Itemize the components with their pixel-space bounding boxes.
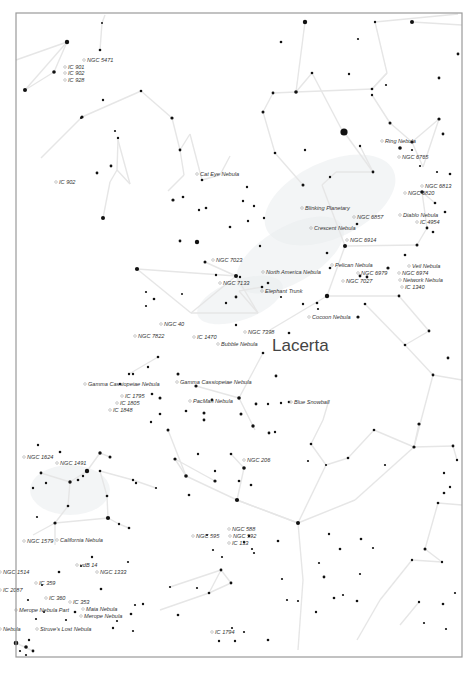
- dso-label[interactable]: Cat Eye Nebula: [200, 171, 239, 177]
- dso-label[interactable]: IC 1848: [113, 407, 133, 413]
- deep-sky-object[interactable]: IC 1795: [121, 393, 146, 399]
- deep-sky-object[interactable]: IC 1794: [211, 629, 235, 635]
- deep-sky-object[interactable]: IC 902: [64, 70, 86, 76]
- dso-label[interactable]: IC 133: [232, 540, 249, 546]
- star-chart[interactable]: NGC 5471IC 901IC 902IC 928Ring NebulaNGC…: [0, 0, 475, 674]
- deep-sky-object[interactable]: NGC 6914: [346, 237, 377, 243]
- deep-sky-object[interactable]: NGC 5471: [83, 57, 114, 63]
- dso-label[interactable]: NGC 1624: [27, 454, 53, 460]
- dso-label[interactable]: Crescent Nebula: [314, 225, 356, 231]
- dso-label[interactable]: NGC 6765: [402, 154, 429, 160]
- dso-label[interactable]: NGC 1333: [100, 569, 127, 575]
- dso-label[interactable]: Diablo Nebula: [403, 212, 438, 218]
- dso-label[interactable]: IC 1470: [197, 334, 217, 340]
- deep-sky-object[interactable]: NGC 1624: [23, 454, 54, 460]
- deep-sky-object[interactable]: Crescent Nebula: [310, 225, 356, 231]
- dso-label[interactable]: IC 360: [49, 595, 66, 601]
- deep-sky-object[interactable]: NGC 206: [243, 457, 272, 463]
- deep-sky-object[interactable]: IC 1340: [401, 284, 426, 290]
- dso-label[interactable]: IC 1795: [125, 393, 145, 399]
- dso-label[interactable]: Ring Nebula: [385, 138, 416, 144]
- dso-label[interactable]: NGC 6813: [425, 183, 452, 189]
- deep-sky-object[interactable]: IC 359: [35, 580, 56, 586]
- dso-label[interactable]: North America Nebula: [266, 269, 321, 275]
- dso-label[interactable]: Gamma Cassiopeiae Nebula: [88, 381, 160, 387]
- dso-label[interactable]: NGC 7398: [248, 329, 275, 335]
- dso-label[interactable]: Nebula: [3, 626, 21, 632]
- dso-label[interactable]: Struve's Lost Nebula: [40, 626, 91, 632]
- deep-sky-object[interactable]: IC 1805: [116, 400, 141, 406]
- deep-sky-object[interactable]: IC 2087: [0, 587, 23, 593]
- dso-label[interactable]: NGC 1579: [27, 538, 53, 544]
- deep-sky-object[interactable]: Ring Nebula: [381, 138, 416, 144]
- deep-sky-object[interactable]: Cat Eye Nebula: [196, 171, 239, 177]
- dso-label[interactable]: IC 902: [68, 70, 85, 76]
- deep-sky-object[interactable]: IC 1470: [193, 334, 218, 340]
- dso-label[interactable]: NGC 6857: [357, 214, 384, 220]
- deep-sky-object[interactable]: NGC 6974: [398, 270, 429, 276]
- dso-label[interactable]: NGC 7023: [216, 257, 243, 263]
- deep-sky-object[interactable]: NGC 588: [228, 526, 257, 532]
- deep-sky-object[interactable]: NGC 592: [229, 533, 258, 539]
- dso-label[interactable]: California Nebula: [60, 537, 103, 543]
- dso-label[interactable]: IC 353: [73, 599, 90, 605]
- dso-label[interactable]: Blinking Planetary: [305, 205, 351, 211]
- dso-label[interactable]: NGC 40: [164, 321, 185, 327]
- deep-sky-object[interactable]: IC 133: [228, 540, 250, 546]
- deep-sky-object[interactable]: NGC 1514: [0, 569, 29, 575]
- dso-label[interactable]: NGC 6914: [350, 237, 376, 243]
- dso-label[interactable]: NGC 588: [232, 526, 256, 532]
- dso-label[interactable]: NGC 592: [233, 533, 257, 539]
- deep-sky-object[interactable]: Network Nebula: [399, 277, 443, 283]
- dso-label[interactable]: IC 902: [59, 179, 76, 185]
- deep-sky-object[interactable]: NGC 40: [160, 321, 185, 327]
- deep-sky-object[interactable]: Nebula: [0, 626, 21, 632]
- dso-label[interactable]: NGC 6974: [402, 270, 428, 276]
- deep-sky-object[interactable]: NGC 6813: [421, 183, 453, 189]
- deep-sky-object[interactable]: NGC 7023: [212, 257, 244, 263]
- deep-sky-object[interactable]: IC 928: [64, 77, 86, 83]
- deep-sky-object[interactable]: Bubble Nebula: [217, 341, 258, 347]
- deep-sky-object[interactable]: NGC 6857: [353, 214, 385, 220]
- dso-label[interactable]: Merope Nebula: [84, 613, 122, 619]
- deep-sky-object[interactable]: Elephant Trunk: [261, 288, 304, 294]
- deep-sky-object[interactable]: Merope Nebula Part: [15, 607, 70, 613]
- deep-sky-object[interactable]: NGC 6979: [357, 270, 388, 276]
- deep-sky-object[interactable]: North America Nebula: [262, 269, 321, 275]
- deep-sky-object[interactable]: IC 353: [69, 599, 91, 605]
- deep-sky-object[interactable]: Maia Nebula: [82, 606, 118, 612]
- dso-label[interactable]: Cocoon Nebula: [312, 314, 351, 320]
- dso-label[interactable]: Merope Nebula Part: [19, 607, 70, 613]
- deep-sky-object[interactable]: vdB 14: [76, 562, 98, 568]
- dso-label[interactable]: IC 2087: [3, 587, 23, 593]
- deep-sky-object[interactable]: NGC 595: [192, 533, 221, 539]
- dso-label[interactable]: NGC 595: [196, 533, 220, 539]
- deep-sky-object[interactable]: California Nebula: [56, 537, 103, 543]
- deep-sky-object[interactable]: Struve's Lost Nebula: [36, 626, 92, 632]
- dso-label[interactable]: Elephant Trunk: [265, 288, 304, 294]
- deep-sky-object[interactable]: NGC 7133: [219, 280, 251, 286]
- dso-label[interactable]: NGC 7133: [223, 280, 250, 286]
- deep-sky-object[interactable]: IC 1848: [109, 407, 134, 413]
- dso-label[interactable]: NGC 7027: [346, 278, 373, 284]
- deep-sky-object[interactable]: Merope Nebula: [80, 613, 123, 619]
- dso-label[interactable]: NGC 206: [247, 457, 271, 463]
- deep-sky-object[interactable]: NGC 7822: [134, 333, 166, 339]
- deep-sky-object[interactable]: Diablo Nebula: [399, 212, 438, 218]
- dso-label[interactable]: Bubble Nebula: [221, 341, 258, 347]
- deep-sky-object[interactable]: NGC 1579: [23, 538, 54, 544]
- dso-label[interactable]: IC 1805: [120, 400, 140, 406]
- deep-sky-object[interactable]: Gamma Cassiopeiae Nebula: [84, 381, 160, 387]
- deep-sky-object[interactable]: IC 902: [55, 179, 77, 185]
- deep-sky-object[interactable]: NGC 1491: [56, 460, 87, 466]
- deep-sky-object[interactable]: NGC 7398: [244, 329, 276, 335]
- dso-label[interactable]: NGC 6979: [361, 270, 387, 276]
- dso-label[interactable]: Gamma Cassiopeiae Nebula: [180, 379, 252, 385]
- deep-sky-object[interactable]: Veil Nebula: [408, 263, 441, 269]
- deep-sky-object[interactable]: Blue Snowball: [290, 399, 331, 405]
- dso-label[interactable]: IC 359: [39, 580, 55, 586]
- dso-label[interactable]: NGC 7822: [138, 333, 165, 339]
- dso-label[interactable]: PacMan Nebula: [193, 398, 233, 404]
- dso-label[interactable]: Maia Nebula: [86, 606, 117, 612]
- deep-sky-object[interactable]: NGC 6765: [398, 154, 430, 160]
